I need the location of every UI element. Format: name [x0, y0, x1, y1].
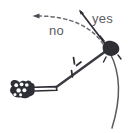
hand-grip-icon	[10, 80, 35, 98]
label-no: no	[49, 24, 64, 37]
motion-direction-diagram: yes no	[0, 0, 132, 133]
swing-arc-path	[110, 53, 119, 128]
label-yes: yes	[92, 12, 113, 25]
tool-shaft-line	[55, 51, 106, 88]
